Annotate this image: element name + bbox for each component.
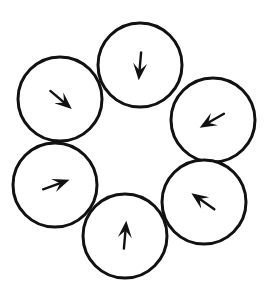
circle-arrow-diagram	[0, 0, 275, 299]
arrow-shaft	[140, 52, 142, 70]
circles-layer	[13, 23, 255, 278]
circle-top	[98, 23, 182, 107]
circle-upper-right	[171, 78, 255, 162]
arrow-shaft	[124, 230, 126, 248]
circle-bottom	[83, 194, 167, 278]
circle-upper-left	[18, 57, 102, 141]
circle-lower-left	[13, 143, 97, 227]
circle-lower-right	[162, 160, 246, 244]
